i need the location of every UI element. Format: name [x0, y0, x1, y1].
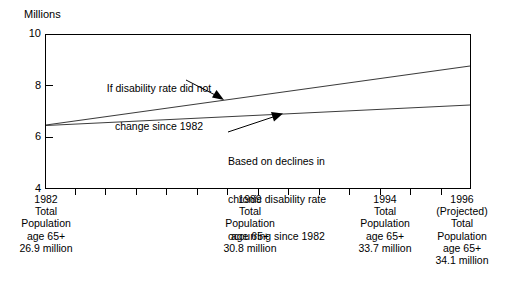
x-label-1989-value: 30.8 million	[208, 242, 292, 254]
y-axis-title: Millions	[24, 9, 61, 20]
x-label-1996-total: Total	[420, 217, 504, 229]
x-label-1994-year: 1994	[343, 193, 427, 205]
x-label-1982-population: Population	[4, 217, 88, 229]
x-label-1982-value: 26.9 million	[4, 242, 88, 254]
x-label-1989-year: 1989	[208, 193, 292, 205]
x-label-1982-age: age 65+	[4, 230, 88, 242]
x-label-1996-year: 1996	[420, 193, 504, 205]
x-label-group-1982: 1982 Total Population age 65+ 26.9 milli…	[4, 193, 88, 254]
x-label-1996-projected: (Projected)	[420, 205, 504, 217]
x-label-1994-population: Population	[343, 217, 427, 229]
x-label-1996-population: Population	[420, 230, 504, 242]
x-label-1989-age: age 65+	[208, 230, 292, 242]
x-label-1994-age: age 65+	[343, 230, 427, 242]
annotation-upper-line-1: If disability rate did not	[84, 82, 234, 95]
y-tick-label-6: 6	[21, 131, 41, 142]
y-tick-label-10: 10	[21, 28, 41, 39]
x-label-group-1996: 1996 (Projected) Total Population age 65…	[420, 193, 504, 266]
x-label-group-1994: 1994 Total Population age 65+ 33.7 milli…	[343, 193, 427, 254]
annotation-upper-text: If disability rate did not change since …	[84, 57, 234, 157]
x-label-1982-year: 1982	[4, 193, 88, 205]
x-label-1996-age: age 65+	[420, 242, 504, 254]
x-label-1996-value: 34.1 million	[420, 254, 504, 266]
x-label-1989-population: Population	[208, 217, 292, 229]
annotation-lower-line-1: Based on declines in	[228, 155, 368, 168]
x-label-1982-total: Total	[4, 205, 88, 217]
y-tick-label-8: 8	[21, 80, 41, 91]
x-label-1994-total: Total	[343, 205, 427, 217]
annotation-upper-line-2: change since 1982	[84, 120, 234, 133]
x-label-group-1989: 1989 Total Population age 65+ 30.8 milli…	[208, 193, 292, 254]
chart-container: Millions 10 8 6 4 If disability rate did…	[0, 0, 508, 289]
x-label-1994-value: 33.7 million	[343, 242, 427, 254]
x-label-1989-total: Total	[208, 205, 292, 217]
